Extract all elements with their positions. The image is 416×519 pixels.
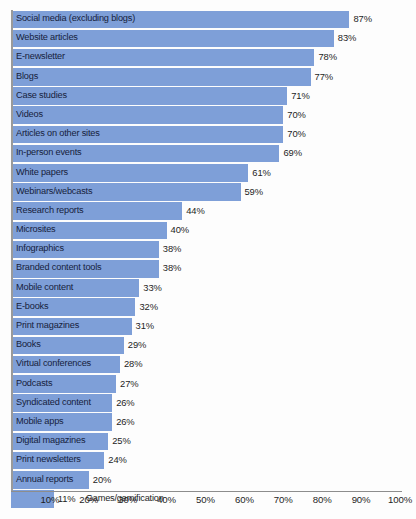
bar-value-label: 71% xyxy=(291,87,309,105)
bar-category-label: In-person events xyxy=(16,144,82,162)
bar-row: 27%Podcasts xyxy=(11,375,406,394)
bar-category-label: White papers xyxy=(16,164,68,182)
x-axis-tick-label: 90% xyxy=(352,494,371,505)
x-axis-tick-label: 70% xyxy=(274,494,293,505)
bar-value-label: 70% xyxy=(287,125,305,143)
bar-row: 31%Print magazines xyxy=(11,317,406,336)
bar-row: 20%Annual reports xyxy=(11,471,406,490)
bar-category-label: Blogs xyxy=(16,68,38,86)
bar-value-label: 44% xyxy=(186,202,204,220)
bar-row: 78%E-newsletter xyxy=(11,48,406,67)
bar-value-label: 70% xyxy=(287,106,305,124)
bar-category-label: Books xyxy=(16,336,41,354)
x-axis-line xyxy=(11,491,402,492)
bar-value-label: 69% xyxy=(283,144,301,162)
bar-category-label: Branded content tools xyxy=(16,259,102,277)
bar-row: 33%Mobile content xyxy=(11,279,406,298)
bar-row: 71%Case studies xyxy=(11,87,406,106)
bar-row: 32%E-books xyxy=(11,298,406,317)
bar-value-label: 77% xyxy=(315,68,333,86)
bar-category-label: Videos xyxy=(16,106,43,124)
x-axis-tick-label: 30% xyxy=(118,494,137,505)
bar-category-label: Webinars/webcasts xyxy=(16,183,92,201)
bar-category-label: Podcasts xyxy=(16,375,52,393)
bar-row: 44%Research reports xyxy=(11,202,406,221)
bar-row: 69%In-person events xyxy=(11,144,406,163)
bar-value-label: 31% xyxy=(136,317,154,335)
bar-category-label: Syndicated content xyxy=(16,394,91,412)
bar-row: 70%Articles on other sites xyxy=(11,125,406,144)
bar-category-label: Virtual conferences xyxy=(16,355,91,373)
bar-value-label: 59% xyxy=(245,183,263,201)
x-axis-tick-label: 60% xyxy=(235,494,254,505)
bar-row: 70%Videos xyxy=(11,106,406,125)
bar-value-label: 38% xyxy=(163,240,181,258)
bar-category-label: Articles on other sites xyxy=(16,125,100,143)
bar-row: 40%Microsites xyxy=(11,221,406,240)
bar-row: 87%Social media (excluding blogs) xyxy=(11,10,406,29)
bar-value-label: 33% xyxy=(143,279,161,297)
x-axis-tick-label: 20% xyxy=(79,494,98,505)
bar-category-label: Mobile apps xyxy=(16,413,64,431)
plot-area: 87%Social media (excluding blogs)83%Webs… xyxy=(11,10,406,490)
bar-value-label: 20% xyxy=(93,471,111,489)
bar-category-label: Research reports xyxy=(16,202,84,220)
bar-category-label: Digital magazines xyxy=(16,432,85,450)
bar-row: 26%Syndicated content xyxy=(11,394,406,413)
bar-category-label: Print newsletters xyxy=(16,451,81,469)
bar-category-label: E-newsletter xyxy=(16,48,65,66)
category-axis-line xyxy=(11,10,13,491)
bar-category-label: Infographics xyxy=(16,240,64,258)
bar-row: 24%Print newsletters xyxy=(11,451,406,470)
bar-value-label: 32% xyxy=(139,298,157,316)
x-axis-tick-label: 80% xyxy=(313,494,332,505)
bar-row: 61%White papers xyxy=(11,164,406,183)
bar-category-label: Social media (excluding blogs) xyxy=(16,10,135,28)
bar-value-label: 87% xyxy=(353,10,371,28)
bar-chart: 87%Social media (excluding blogs)83%Webs… xyxy=(0,0,416,519)
x-axis-tick-labels: 10%20%30%40%50%60%70%80%90%100% xyxy=(0,494,416,514)
bar-row: 59%Webinars/webcasts xyxy=(11,183,406,202)
bar-value-label: 24% xyxy=(108,451,126,469)
bar-category-label: Website articles xyxy=(16,29,78,47)
bar-value-label: 26% xyxy=(116,394,134,412)
bar-row: 28%Virtual conferences xyxy=(11,355,406,374)
bar-category-label: Mobile content xyxy=(16,279,73,297)
bar-row: 83%Website articles xyxy=(11,29,406,48)
x-axis-tick-label: 10% xyxy=(40,494,59,505)
bar xyxy=(11,68,311,86)
bar-category-label: E-books xyxy=(16,298,48,316)
bar-row: 38%Branded content tools xyxy=(11,259,406,278)
bar xyxy=(11,106,283,124)
bar-row: 77%Blogs xyxy=(11,68,406,87)
bar-value-label: 29% xyxy=(128,336,146,354)
bar-row: 29%Books xyxy=(11,336,406,355)
bar-value-label: 83% xyxy=(338,29,356,47)
bar-category-label: Print magazines xyxy=(16,317,79,335)
bar-value-label: 61% xyxy=(252,164,270,182)
bar-value-label: 38% xyxy=(163,259,181,277)
bar-category-label: Case studies xyxy=(16,87,67,105)
bar-row: 26%Mobile apps xyxy=(11,413,406,432)
bar-category-label: Annual reports xyxy=(16,471,73,489)
bar-row: 38%Infographics xyxy=(11,240,406,259)
bar-row: 25%Digital magazines xyxy=(11,432,406,451)
bar-value-label: 28% xyxy=(124,355,142,373)
x-axis-tick-label: 40% xyxy=(157,494,176,505)
bar-value-label: 26% xyxy=(116,413,134,431)
bar-value-label: 25% xyxy=(112,432,130,450)
x-axis-tick-label: 100% xyxy=(388,494,412,505)
x-axis-tick-label: 50% xyxy=(196,494,215,505)
bar-value-label: 40% xyxy=(171,221,189,239)
bar-category-label: Microsites xyxy=(16,221,56,239)
bar-value-label: 78% xyxy=(318,48,336,66)
bar-value-label: 27% xyxy=(120,375,138,393)
